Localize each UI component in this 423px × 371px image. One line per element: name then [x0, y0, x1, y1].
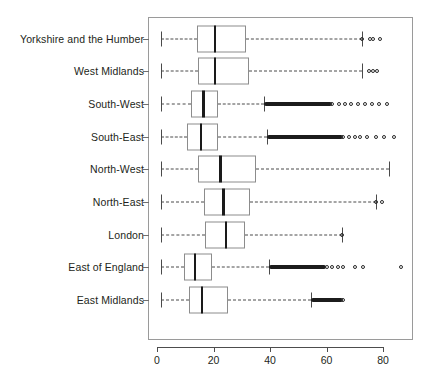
y-axis-tick-8 — [143, 300, 149, 301]
x-axis-tick-3 — [327, 347, 328, 352]
y-axis-tick-4 — [143, 169, 149, 170]
median-line-8 — [201, 287, 204, 314]
x-axis-tick-label-0: 0 — [154, 354, 160, 366]
x-axis-tick-0 — [157, 347, 158, 352]
y-axis-tick-7 — [143, 267, 149, 268]
x-axis-tick-label-4: 80 — [377, 354, 389, 366]
y-axis-tick-6 — [143, 235, 149, 236]
boxplot-group-8 — [0, 0, 423, 371]
whisker-low-cap-8 — [161, 293, 162, 308]
x-axis-tick-label-3: 60 — [321, 354, 333, 366]
x-axis-tick-label-2: 40 — [264, 354, 276, 366]
x-axis-tick-2 — [270, 347, 271, 352]
y-axis-tick-1 — [143, 71, 149, 72]
outlier-point-8-0 — [341, 298, 345, 302]
y-axis-tick-2 — [143, 104, 149, 105]
x-axis-tick-label-1: 20 — [208, 354, 220, 366]
plot-area — [0, 0, 423, 371]
box-8 — [189, 287, 227, 314]
x-axis-tick-1 — [214, 347, 215, 352]
outlier-cluster-8-0 — [311, 298, 343, 302]
y-axis-tick-5 — [143, 202, 149, 203]
whisker-low-line-8 — [161, 300, 189, 301]
y-axis-tick-0 — [143, 39, 149, 40]
boxplot-figure: Yorkshire and the HumberWest MidlandsSou… — [0, 0, 423, 371]
x-axis-tick-4 — [383, 347, 384, 352]
whisker-high-line-8 — [228, 300, 311, 301]
y-axis-tick-3 — [143, 137, 149, 138]
